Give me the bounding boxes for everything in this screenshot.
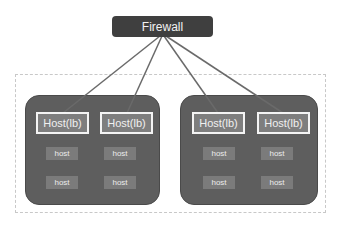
connector-lb-3 [164, 36, 218, 113]
host-label: host [211, 178, 226, 187]
host-label: host [269, 149, 284, 158]
lb-label: Host(lb) [107, 117, 146, 129]
host-node: host [203, 147, 235, 160]
host-node: host [104, 147, 136, 160]
host-node: host [203, 176, 235, 189]
host-label: host [269, 178, 284, 187]
host-label: host [54, 149, 69, 158]
host-node: host [104, 176, 136, 189]
firewall-label: Firewall [142, 20, 183, 34]
lb-label: Host(lb) [264, 117, 303, 129]
host-label: host [54, 178, 69, 187]
lb-label: Host(lb) [199, 117, 238, 129]
lb-label: Host(lb) [43, 117, 82, 129]
host-label: host [211, 149, 226, 158]
connector-lb-1 [63, 36, 160, 113]
host-node: host [261, 176, 293, 189]
host-node: host [46, 147, 78, 160]
host-label: host [112, 178, 127, 187]
load-balancer-node: Host(lb) [100, 112, 153, 134]
firewall-node: Firewall [112, 16, 213, 37]
host-node: host [261, 147, 293, 160]
host-label: host [112, 149, 127, 158]
load-balancer-node: Host(lb) [192, 112, 245, 134]
load-balancer-node: Host(lb) [257, 112, 310, 134]
host-node: host [46, 176, 78, 189]
load-balancer-node: Host(lb) [36, 112, 89, 134]
connector-lb-4 [166, 36, 283, 113]
